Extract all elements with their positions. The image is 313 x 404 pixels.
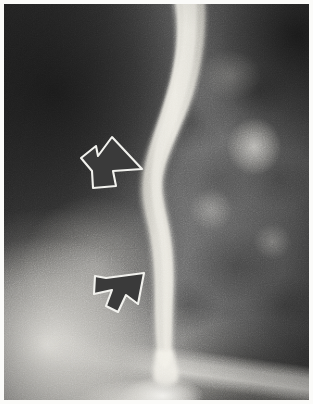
radiograph-image: Proximal margin of the narrowed esophage…: [4, 4, 309, 400]
upper-arrow: Proximal margin of the narrowed esophage…: [78, 133, 148, 195]
image-vignette: [4, 4, 309, 400]
lower-arrow: Distal margin of the narrowed esophageal…: [80, 262, 150, 324]
radiograph-viewer: Proximal margin of the narrowed esophage…: [0, 0, 313, 404]
